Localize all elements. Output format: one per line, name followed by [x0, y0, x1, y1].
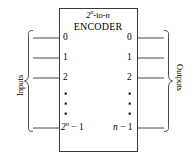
output-port-label-1: 1 — [127, 53, 132, 63]
encoder-title-main: ENCODER — [59, 22, 137, 32]
encoder-diagram-canvas: 2n-to-n ENCODER 0 1 2 2n − 1 0 1 2 n − 1… — [0, 0, 195, 161]
input-port-label-last: 2n − 1 — [61, 123, 84, 133]
input-ellipsis-dot-1 — [65, 93, 67, 95]
input-ellipsis-dot-3 — [65, 113, 67, 115]
input-last-base: 2n — [61, 122, 69, 132]
output-last-base: n — [113, 122, 118, 132]
output-port-label-last: n − 1 — [113, 123, 133, 133]
output-port-label-2: 2 — [127, 73, 132, 83]
encoder-title-ratio: 2n-to-n — [59, 11, 137, 20]
input-port-label-2: 2 — [63, 73, 68, 83]
input-port-label-0: 0 — [63, 33, 68, 43]
inputs-group-label: Inputs — [16, 75, 25, 96]
output-ellipsis-dot-2 — [129, 103, 131, 105]
inputs-brace — [25, 31, 33, 132]
input-port-label-1: 1 — [63, 53, 68, 63]
title-to-text: -to- — [93, 10, 105, 20]
output-ellipsis-dot-3 — [129, 113, 131, 115]
input-ellipsis-dot-2 — [65, 103, 67, 105]
outputs-group-label: Outputs — [176, 64, 185, 91]
output-port-label-0: 0 — [127, 33, 132, 43]
title-n-term: n — [106, 10, 110, 20]
output-ellipsis-dot-1 — [129, 93, 131, 95]
outputs-brace — [165, 31, 173, 132]
